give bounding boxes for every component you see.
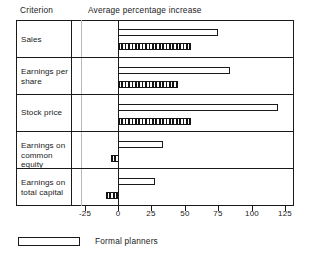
row-divider	[16, 57, 294, 58]
criterion-column-header: Criterion	[20, 5, 53, 15]
bar-open-sales	[118, 29, 218, 36]
chart-header: Criterion Average percentage increase	[0, 0, 309, 22]
axis-tick-label: 50	[180, 209, 189, 218]
axis-tick-label: 75	[213, 209, 222, 218]
label-column-divider	[71, 20, 72, 206]
bar-hatched-earnings-common-equity	[111, 155, 118, 162]
bar-hatched-earnings-total-capital	[106, 192, 118, 199]
row-label-text: Earnings ontotal capital	[21, 178, 65, 197]
bar-open-earnings-common-equity	[118, 141, 163, 148]
axis-tick-label: 0	[116, 209, 121, 218]
row-divider	[16, 94, 294, 95]
bar-open-stock-price	[118, 104, 278, 111]
axis-tick-label: 100	[245, 209, 259, 218]
row-label-earnings-per-share: Earnings pershare	[21, 67, 71, 86]
legend-label-formal-planners: Formal planners	[95, 236, 158, 246]
axis-tick-label: -25	[79, 209, 91, 218]
bar-hatched-earnings-per-share	[118, 81, 178, 88]
axis-tick-label: 125	[278, 209, 292, 218]
row-label-sales: Sales	[21, 35, 71, 45]
bar-open-earnings-per-share	[118, 67, 230, 74]
axis-tick-labels: -250255075100125	[0, 209, 309, 223]
row-label-text: Earnings oncommon equity	[21, 141, 65, 169]
bar-hatched-stock-price	[118, 118, 191, 125]
row-label-text: Stock price	[21, 108, 62, 117]
axis-tick-label: 25	[146, 209, 155, 218]
row-label-text: Sales	[21, 35, 42, 44]
row-label-stock-price: Stock price	[21, 108, 71, 118]
bar-open-earnings-total-capital	[118, 178, 155, 185]
row-label-earnings-total-capital: Earnings ontotal capital	[21, 178, 71, 197]
gridline-neg25	[81, 20, 82, 206]
row-label-text: Earnings pershare	[21, 67, 68, 86]
legend-swatch-formal-planners	[18, 237, 80, 246]
value-axis-title: Average percentage increase	[88, 5, 202, 15]
row-label-earnings-common-equity: Earnings oncommon equity	[21, 141, 71, 170]
chart-legend: Formal planners	[0, 234, 309, 256]
bar-hatched-sales	[118, 43, 191, 50]
row-divider	[16, 131, 294, 132]
